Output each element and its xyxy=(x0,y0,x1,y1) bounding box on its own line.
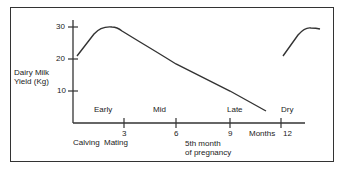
annotation-pregnancy-line2: of pregnancy xyxy=(185,148,231,157)
stage-late: Late xyxy=(227,105,243,114)
x-axis-label-months: Months xyxy=(249,129,275,138)
annotation-pregnancy-line1: 5th month xyxy=(185,139,221,148)
y-axis-label-line1: Dairy Milk xyxy=(14,68,49,77)
lactation-chart xyxy=(0,0,341,170)
stage-dry: Dry xyxy=(281,105,293,114)
y-axis-label-line2: Yield (Kg) xyxy=(14,77,49,86)
x-tick-6: 6 xyxy=(174,129,178,138)
lactation-curve-2 xyxy=(283,28,320,56)
y-tick-30: 30 xyxy=(56,22,65,31)
x-tick-12: 12 xyxy=(283,129,292,138)
stage-early: Early xyxy=(94,105,112,114)
y-tick-20: 20 xyxy=(56,54,65,63)
annotation-mating: Mating xyxy=(104,138,128,147)
lactation-curve-1 xyxy=(77,27,266,111)
annotation-calving: Calving xyxy=(73,138,100,147)
x-tick-9: 9 xyxy=(228,129,232,138)
y-tick-10: 10 xyxy=(57,86,66,95)
stage-mid: Mid xyxy=(153,105,166,114)
x-tick-3: 3 xyxy=(122,129,126,138)
